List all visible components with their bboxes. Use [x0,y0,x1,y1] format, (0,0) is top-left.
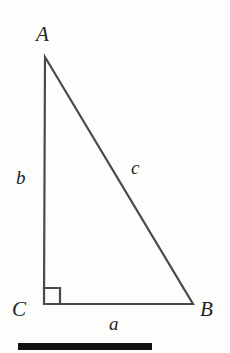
right-angle-marker-icon [44,288,60,304]
bottom-rule-bar [18,343,152,350]
vertex-label-c: C [12,299,26,320]
side-label-a: a [109,314,119,333]
vertex-label-b: B [200,299,213,320]
vertex-label-a: A [36,24,49,45]
side-label-b: b [16,168,26,187]
triangle-diagram [0,0,230,353]
figure-right-triangle: A B C b c a [0,0,230,353]
triangle-shape [44,57,193,304]
side-label-c: c [131,158,139,177]
